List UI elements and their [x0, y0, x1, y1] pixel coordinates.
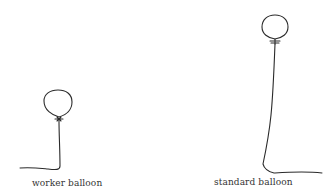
- standard-balloon-label: standard balloon: [214, 177, 293, 187]
- standard-balloon-string: [263, 44, 322, 173]
- worker-balloon-head: [44, 90, 72, 117]
- worker-balloon-string: [20, 120, 60, 170]
- worker-balloon: [20, 90, 72, 170]
- balloon-drawing: [0, 0, 334, 194]
- standard-balloon-head: [262, 15, 288, 39]
- standard-balloon-knot: [270, 39, 280, 44]
- standard-balloon: [262, 15, 322, 173]
- balloon-illustration: worker balloon standard balloon: [0, 0, 334, 194]
- worker-balloon-label: worker balloon: [32, 178, 102, 188]
